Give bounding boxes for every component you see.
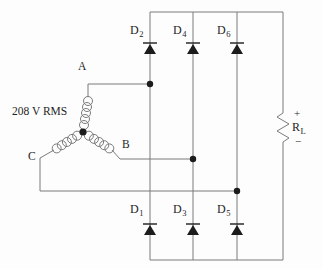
phase-a-junction-dot bbox=[147, 81, 153, 87]
phase-c-coil-icon bbox=[52, 131, 81, 153]
diode-label-d6-base: D bbox=[217, 23, 226, 37]
phase-b-junction-dot bbox=[190, 156, 196, 162]
diode-label-d5-base: D bbox=[217, 202, 226, 216]
diode-label-d4-base: D bbox=[173, 23, 182, 37]
diode-label-d5-sub: 5 bbox=[226, 208, 230, 218]
diode-d3-icon bbox=[187, 225, 199, 235]
load-resistor-label: RL bbox=[292, 121, 305, 133]
wye-neutral-dot bbox=[79, 128, 86, 135]
diode-label-d6-sub: 6 bbox=[226, 29, 230, 39]
source-voltage-label: 208 V RMS bbox=[12, 106, 67, 118]
diode-label-d1: D1 bbox=[130, 203, 143, 215]
diode-label-d2: D2 bbox=[130, 24, 143, 36]
load-minus-sign: − bbox=[295, 136, 301, 147]
phase-a-coil-icon bbox=[80, 97, 93, 130]
diode-label-d3-base: D bbox=[173, 202, 182, 216]
phase-c-wire bbox=[40, 150, 237, 191]
bridge-rails-and-branches bbox=[150, 12, 283, 260]
diode-label-d4: D4 bbox=[173, 24, 186, 36]
diode-label-d3-sub: 3 bbox=[182, 208, 186, 218]
circuit-canvas bbox=[0, 0, 322, 269]
diode-label-d1-sub: 1 bbox=[139, 208, 143, 218]
phase-b-label: B bbox=[122, 139, 130, 151]
phase-b-wire bbox=[112, 150, 193, 159]
diode-d1-icon bbox=[144, 225, 156, 235]
diode-d6-icon bbox=[231, 44, 243, 54]
diode-label-d6: D6 bbox=[217, 24, 230, 36]
diode-label-d2-sub: 2 bbox=[139, 29, 143, 39]
diode-label-d1-base: D bbox=[130, 202, 139, 216]
load-resistor-icon bbox=[277, 110, 289, 146]
diode-label-d3: D3 bbox=[173, 203, 186, 215]
diode-d4-icon bbox=[187, 44, 199, 54]
phase-a-label: A bbox=[78, 61, 86, 73]
phase-c-junction-dot bbox=[234, 188, 240, 194]
load-resistor-label-base: R bbox=[292, 120, 300, 134]
diode-d2-icon bbox=[144, 44, 156, 54]
phase-c-label: C bbox=[28, 151, 36, 163]
diode-label-d2-base: D bbox=[130, 23, 139, 37]
load-resistor-label-sub: L bbox=[301, 126, 306, 136]
circuit-wires bbox=[40, 12, 289, 260]
phase-b-coil-icon bbox=[84, 131, 113, 153]
phase-a-wire bbox=[88, 84, 150, 97]
diode-label-d5: D5 bbox=[217, 203, 230, 215]
diode-label-d4-sub: 4 bbox=[182, 29, 186, 39]
diode-d5-icon bbox=[231, 225, 243, 235]
load-plus-sign: + bbox=[294, 108, 300, 119]
junction-dots bbox=[79, 81, 240, 194]
circuit-diagram: 208 V RMS A B C D2 D4 D6 D1 D3 D5 + RL − bbox=[0, 0, 322, 269]
